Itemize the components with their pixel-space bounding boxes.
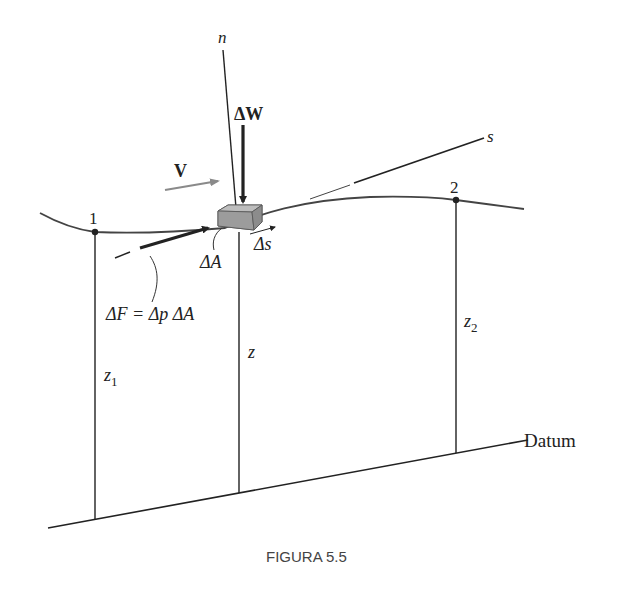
delta-s-label: Δs [253,234,272,254]
streamline-diagram: n s ΔW V ΔA Δs ΔF = Δp ΔA 1 2 z1 z z2 Da… [0,0,634,604]
s-axis-label: s [487,127,494,146]
weight-label: ΔW [234,104,263,124]
point-2-marker [453,197,459,203]
velocity-label: V [174,161,187,181]
point-1-marker [92,229,98,235]
datum-label: Datum [524,430,576,451]
force-leader [150,256,157,302]
height-2-label: z2 [463,311,478,335]
point-1-label: 1 [89,209,98,228]
n-axis [223,50,236,208]
n-axis-label: n [218,28,227,47]
figure-caption: FIGURA 5.5 [266,548,347,565]
force-label: ΔF = Δp ΔA [105,304,195,324]
force-arrow-dash [115,252,130,258]
datum-line [48,440,528,528]
s-axis-dashed [310,185,350,199]
fluid-element-block [218,205,262,230]
height-1-label: z1 [103,365,118,389]
point-2-label: 2 [450,178,459,197]
area-label: ΔA [199,252,223,272]
area-leader [213,228,222,250]
streamline-curve [40,197,524,233]
height-element-label: z [247,342,255,362]
s-axis [354,138,484,183]
velocity-arrow [165,181,218,190]
